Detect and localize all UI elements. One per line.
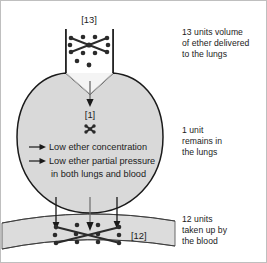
- ether-dot: [87, 63, 92, 68]
- lung-label: [1]: [85, 109, 95, 120]
- ether-dot: [69, 50, 74, 55]
- ether-dot: [81, 51, 86, 56]
- ether-dot: [86, 42, 91, 47]
- ether-dot: [96, 232, 101, 237]
- ether-dot: [92, 124, 95, 127]
- ether-dot: [96, 240, 101, 245]
- ether-dot: [106, 43, 111, 48]
- lung-note-text-group: Low ether concentration Low ether partia…: [49, 142, 155, 179]
- ether-dot: [88, 127, 92, 131]
- annotation-absorbed: 12 units taken up by the blood: [182, 214, 227, 248]
- ether-dot: [93, 51, 98, 56]
- ether-dot: [105, 36, 110, 41]
- lung-note-line-3: in both lungs and blood: [51, 169, 146, 179]
- ether-dot: [117, 241, 122, 246]
- ether-dot: [96, 223, 101, 228]
- blood-vessel-band: [2, 214, 175, 249]
- ether-dot: [75, 59, 80, 64]
- blood-label: [12]: [131, 230, 147, 241]
- lung-note-line-2: Low ether partial pressure: [49, 156, 155, 166]
- ether-dot: [92, 130, 95, 133]
- ether-dot: [81, 35, 86, 40]
- ether-dot: [75, 223, 80, 228]
- annotation-remaining: 1 unit remains in the lungs: [182, 125, 222, 159]
- ether-dot: [54, 225, 59, 230]
- annotation-delivered: 13 units volume of ether delivered to th…: [182, 27, 249, 61]
- ether-dot: [84, 130, 87, 133]
- ether-dot: [69, 36, 74, 41]
- figure-panel: Low ether concentration Low ether partia…: [0, 0, 267, 263]
- ether-dot: [75, 240, 80, 245]
- blood-vessel-group: [2, 214, 175, 249]
- ether-dot: [117, 233, 122, 238]
- ether-dot: [105, 50, 110, 55]
- ether-dot: [74, 232, 79, 237]
- lung-note-line-1: Low ether concentration: [49, 142, 147, 152]
- ether-dot: [117, 225, 122, 230]
- ether-dot: [53, 233, 58, 238]
- ether-dot: [84, 124, 87, 127]
- ether-dot: [54, 241, 59, 246]
- ether-dot: [93, 35, 98, 40]
- trachea-label: [13]: [81, 14, 97, 25]
- ether-dot: [68, 43, 73, 48]
